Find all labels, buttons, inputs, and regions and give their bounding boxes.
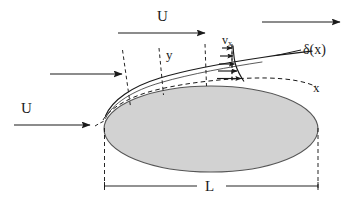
- label-boundary-layer-thickness-delta: δ(x): [303, 43, 326, 57]
- label-body-length-L: L: [205, 179, 214, 194]
- label-freestream-velocity-top: U: [157, 9, 168, 24]
- normal-dashed-line-1: [123, 50, 131, 107]
- label-streamwise-coordinate-x: x: [313, 81, 320, 94]
- ellipse-body: [104, 86, 318, 172]
- label-velocity-profile-vx: vx: [222, 34, 232, 48]
- normal-dashed-line-2: [159, 48, 164, 95]
- normal-dashed-line-3: [205, 44, 207, 86]
- label-velocity-profile-vx-subscript: x: [228, 39, 232, 48]
- diagram-canvas: [0, 0, 350, 201]
- boundary-layer-diagram: U U y x L vx δ(x): [0, 0, 350, 201]
- label-freestream-velocity-bottom: U: [21, 101, 32, 116]
- label-normal-coordinate-y: y: [166, 48, 173, 61]
- velocity-profile-envelope-curve: [233, 46, 244, 82]
